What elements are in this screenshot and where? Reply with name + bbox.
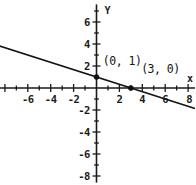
x-tick-label: 4 (139, 93, 145, 105)
tick-labels-group: -6-4-22468642-2-4-6-8 (22, 16, 192, 182)
x-tick-label: -4 (45, 93, 57, 105)
x-tick-label: 6 (162, 93, 168, 105)
y-tick-label: -2 (78, 104, 90, 116)
data-point-1 (128, 86, 133, 91)
point-annotations-group: (0, 1)(3, 0) (103, 54, 180, 76)
y-tick-label: -4 (78, 126, 90, 138)
x-tick-label: 8 (186, 93, 192, 105)
y-tick-label: 2 (84, 60, 90, 72)
y-tick-label: 4 (84, 38, 90, 50)
data-point-0 (94, 75, 99, 80)
x-axis-name: x (187, 73, 193, 84)
coordinate-graph: -6-4-22468642-2-4-6-8 Yx (0, 1)(3, 0) x … (0, 0, 196, 185)
y-intercept-label: (0, 1) (103, 54, 142, 68)
y-tick-label: -8 (78, 170, 90, 182)
y-axis-name: Y (105, 5, 111, 16)
x-tick-label: -2 (68, 93, 80, 105)
y-tick-label: 6 (84, 16, 90, 28)
plot-area: -6-4-22468642-2-4-6-8 Yx (0, 1)(3, 0) (0, 0, 196, 185)
x-intercept-label: (3, 0) (141, 62, 180, 76)
x-tick-label: 2 (116, 93, 122, 105)
x-tick-label: -6 (22, 93, 34, 105)
y-tick-label: -6 (78, 148, 90, 160)
